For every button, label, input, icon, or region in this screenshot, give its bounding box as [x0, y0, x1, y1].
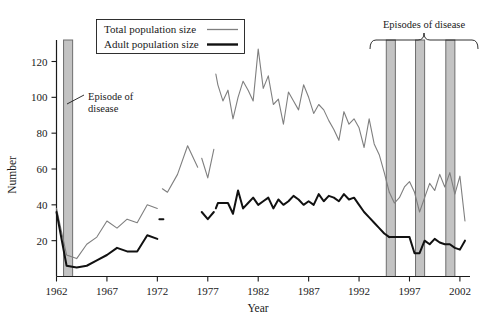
- episode-bar: [446, 40, 455, 277]
- episode-bar: [416, 40, 425, 277]
- episode-bar: [64, 40, 73, 277]
- series-line: [162, 146, 197, 193]
- legend-label-adult: Adult population size: [104, 38, 199, 50]
- y-tick-label: 100: [31, 91, 48, 103]
- x-axis-title: Year: [247, 302, 268, 314]
- y-tick-label: 40: [37, 199, 49, 211]
- series-line: [216, 191, 389, 238]
- x-tick-label: 1962: [46, 285, 68, 297]
- series-lines-group: [57, 49, 465, 268]
- y-tick-label: 20: [37, 235, 49, 247]
- x-tick-label: 2002: [449, 285, 471, 297]
- y-tick-label: 60: [37, 163, 49, 175]
- legend-label-total: Total population size: [104, 23, 196, 35]
- y-tick-label: 120: [31, 56, 48, 68]
- chart-container: 20406080100120 1962196719721977198219871…: [0, 0, 482, 325]
- population-chart: 20406080100120 1962196719721977198219871…: [0, 0, 482, 325]
- x-tick-label: 1977: [197, 285, 220, 297]
- y-axis-title: Number: [6, 156, 18, 194]
- series-line: [202, 212, 214, 219]
- episodes-of-disease-label: Episodes of disease: [383, 19, 466, 30]
- axes-group: [57, 40, 471, 277]
- episode-bar: [386, 40, 395, 277]
- x-axis-ticks: 196219671972197719821987199219972002: [46, 277, 471, 297]
- episode-bars-group: [64, 40, 455, 277]
- x-tick-label: 1972: [146, 285, 168, 297]
- x-tick-label: 1967: [96, 285, 119, 297]
- y-axis-ticks: 20406080100120: [31, 56, 57, 247]
- episode-of-disease-line1: Episode of: [88, 91, 134, 102]
- x-tick-label: 1997: [398, 285, 421, 297]
- series-line: [202, 149, 214, 178]
- x-tick-label: 1987: [298, 285, 321, 297]
- episode-of-disease-line2: disease: [88, 103, 119, 114]
- episode-of-disease-annotation: Episode of disease: [67, 91, 134, 114]
- x-tick-label: 1982: [247, 285, 269, 297]
- x-tick-label: 1992: [348, 285, 370, 297]
- legend: Total population size Adult population s…: [97, 20, 245, 54]
- y-tick-label: 80: [37, 127, 49, 139]
- series-line: [216, 49, 389, 192]
